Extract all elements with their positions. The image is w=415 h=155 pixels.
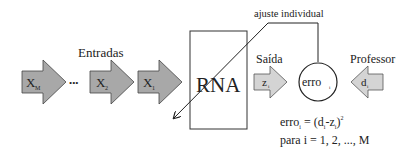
error-node-base: erro (302, 75, 321, 89)
neural-network-training-diagram: Entradas X M ••• X 2 X 1 RNA ajuste indi… (0, 0, 415, 155)
input-x2-sub: 2 (105, 85, 108, 91)
error-formula: erroi = (di-zi)2 para i = 1, 2, ..., M (280, 115, 370, 147)
output-arrow-z: z i (254, 66, 287, 98)
input-arrow-x2: X 2 (90, 60, 134, 104)
formula-exp: 2 (340, 115, 343, 121)
formula-range: para i = 1, 2, ..., M (280, 133, 370, 147)
formula-lhs: erro (280, 115, 299, 129)
inputs-label: Entradas (78, 45, 123, 60)
teacher-label: Professor (350, 52, 395, 66)
output-label: Saída (256, 52, 283, 66)
teacher-arrow-d: d i (351, 66, 383, 98)
output-z-base: z (262, 76, 267, 88)
adjust-feedback-line (174, 23, 318, 118)
adjust-label: ajuste individual (254, 8, 324, 19)
formula-minus: -z (325, 115, 334, 129)
input-arrow-xm: X M (22, 60, 66, 104)
input-xm-sub: M (35, 85, 41, 91)
neural-network-label: RNA (196, 73, 241, 97)
formula-eq: = (d (301, 115, 324, 129)
input-x1-sub: 1 (152, 85, 155, 91)
svg-text:erroi = (di-zi)2: erroi = (di-zi)2 (280, 115, 343, 130)
input-arrow-x1: X 1 (138, 60, 182, 104)
ellipsis: ••• (69, 78, 78, 88)
